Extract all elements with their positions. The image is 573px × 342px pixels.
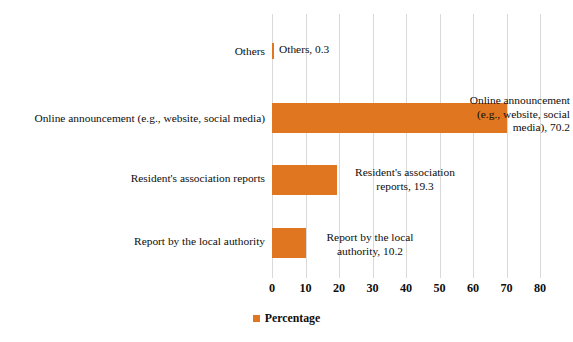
category-axis: Others Online announcement (e.g., websit… bbox=[0, 14, 265, 278]
chart-legend: Percentage bbox=[0, 311, 573, 326]
category-label-report-by-local-authority: Report by the local authority bbox=[134, 235, 265, 248]
data-label-online-announcement-line-3: media), 70.2 bbox=[440, 121, 570, 135]
data-label-others: Others, 0.3 bbox=[279, 43, 329, 57]
bar-chart: Others Online announcement (e.g., websit… bbox=[0, 0, 573, 342]
data-label-report-by-local-authority: Report by the local authority, 10.2 bbox=[310, 231, 430, 258]
x-tick-80: 80 bbox=[520, 281, 560, 296]
data-label-report-line-2: authority, 10.2 bbox=[310, 245, 430, 259]
data-label-online-announcement: Online announcement (e.g., website, soci… bbox=[440, 94, 570, 135]
data-label-online-announcement-line-2: (e.g., website, social bbox=[440, 108, 570, 122]
data-label-residents-line-2: reports, 19.3 bbox=[340, 180, 470, 194]
data-label-online-announcement-line-1: Online announcement bbox=[440, 94, 570, 108]
data-label-others-line-1: Others, 0.3 bbox=[279, 43, 329, 57]
gridline-70 bbox=[507, 14, 508, 278]
bar-report-by-local-authority[interactable] bbox=[272, 228, 306, 258]
category-label-others: Others bbox=[235, 45, 265, 58]
legend-label-percentage: Percentage bbox=[265, 311, 320, 326]
gridline-80 bbox=[540, 14, 541, 278]
bar-others[interactable] bbox=[272, 43, 274, 59]
category-label-online-announcement: Online announcement (e.g., website, soci… bbox=[34, 112, 265, 125]
category-label-residents-association-reports: Resident's association reports bbox=[131, 172, 265, 185]
data-label-residents-association-reports: Resident's association reports, 19.3 bbox=[340, 166, 470, 193]
legend-swatch-icon bbox=[253, 315, 260, 322]
bar-residents-association-reports[interactable] bbox=[272, 165, 337, 195]
data-label-report-line-1: Report by the local bbox=[310, 231, 430, 245]
data-label-residents-line-1: Resident's association bbox=[340, 166, 470, 180]
gridline-60 bbox=[473, 14, 474, 278]
legend-item-percentage[interactable]: Percentage bbox=[253, 311, 320, 326]
gridline-50 bbox=[440, 14, 441, 278]
